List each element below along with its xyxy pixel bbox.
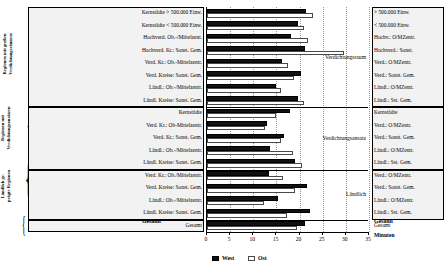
category-label-right: > 500.000 Einw. (374, 10, 448, 15)
x-tick-mark (368, 232, 369, 235)
bar-ost (207, 88, 281, 93)
total-label-right: Gesamt (374, 218, 393, 224)
category-label-left: Ländl.: Ob.-/Mittelzentr. (26, 85, 202, 90)
bar-ost (207, 26, 304, 31)
legend-item-ost: Ost (248, 255, 267, 261)
section-title: Verdichtungsansatz (266, 135, 366, 141)
bar-ost (207, 213, 287, 218)
category-label-right: Ländl.: Sst. Gem. (374, 160, 448, 165)
side-caption-group1-line2: Verdichtungsräumen (8, 33, 13, 74)
bar-ost (207, 176, 283, 181)
category-label-right: Hochv.: O/MZentr. (374, 35, 448, 40)
category-label-right: Verd.: Sonst. Gem. (374, 135, 448, 140)
category-label-left: Verd. Kr.: Ob./Mittelzentr. (26, 173, 202, 178)
legend-swatch-ost-icon (248, 256, 255, 261)
x-tick-mark (206, 232, 207, 235)
x-tick-mark (229, 232, 230, 235)
legend-label-west: West (222, 255, 234, 261)
side-caption-group3-line1: Ländlich ge- (0, 174, 5, 199)
bar-ost (207, 163, 302, 168)
x-tick-mark (322, 232, 323, 235)
x-tick-label-0: 0 (196, 236, 216, 242)
gridline-30 (346, 7, 348, 232)
axis-baseline (207, 232, 368, 233)
category-label-left: Kernstädte > 500.000 Einw. (26, 10, 202, 15)
category-label-right: Hochverd.: Sonst. (374, 48, 448, 53)
category-label-left: Ländl. Kreise: Sonst. Gem. (26, 98, 202, 103)
category-label-left: Kernstädte (26, 110, 202, 115)
section-title: Verdichtungsraum (266, 54, 366, 60)
category-label-left: Ländl. Kreise: Sonst. Gem. (26, 160, 202, 165)
category-label-right: Ländl.: Sst. Gem. (374, 98, 448, 103)
category-label-right: Verd.: Sonst. Gem. (374, 73, 448, 78)
category-label-left: Verd. Kr.: Sonst. Gem. (26, 135, 202, 140)
category-label-right: Ländl.: Sst. Gem. (374, 210, 448, 215)
side-caption-group1: Regionen mit großen Verdichtungsräumen (0, 14, 28, 94)
legend-item-west: West (212, 255, 234, 261)
category-label-left: Gesamt (26, 223, 202, 228)
x-tick-label-30: 30 (335, 236, 355, 242)
side-caption-group2-line2: Verdichtungsansätzen (6, 106, 11, 149)
category-label-right: Verd.: O/MZentr. (374, 123, 448, 128)
section-title: Ländlich (266, 191, 366, 197)
section-separator (207, 220, 368, 221)
category-label-right: Verd.: Sonst. Gem. (374, 185, 448, 190)
bar-ost (207, 38, 308, 43)
side-caption-group3: Ländlich ge- prägte Regionen (0, 160, 26, 212)
bar-ost (207, 126, 265, 131)
bar-ost (207, 151, 293, 156)
bar-ost (207, 76, 294, 81)
category-label-left: Verd. Kreise: Sonst. Gem. (26, 73, 202, 78)
x-tick-mark (345, 232, 346, 235)
category-label-left: Verd. Kreise: Sonst. Gem. (26, 185, 202, 190)
bar-ost (207, 113, 276, 118)
bar-ost (207, 63, 288, 68)
bar-ost (207, 101, 304, 106)
x-tick-mark (252, 232, 253, 235)
category-label-right: Ländl.: O/MZentr. (374, 85, 448, 90)
category-label-left: Ländl.: Ob.-/Mittelzentr. (26, 198, 202, 203)
side-caption-group3-line2: prägte Regionen (6, 170, 11, 202)
axis-unit-label: Minuten (374, 232, 395, 238)
category-label-left: Hochverd. Ob.-/Mittelzent. (26, 35, 202, 40)
side-caption-group2: Regionen mit Verdichtungsansätzen (0, 98, 26, 158)
category-label-left: Verd. Kr.: Ob-Mittelzentr. (26, 123, 202, 128)
gridline-25 (323, 7, 325, 232)
category-label-right: Ländl.: O/MZentr. (374, 148, 448, 153)
category-label-left: Kernstädte < 500.000 Einw. (26, 23, 202, 28)
legend-label-ost: Ost (258, 255, 267, 261)
category-label-right: Kernstädte (374, 110, 448, 115)
section-separator (207, 107, 368, 108)
bar-ost (207, 201, 264, 206)
category-label-left: Ländl.: Ob.-/Mittelzentr. (26, 148, 202, 153)
x-tick-label-5: 5 (219, 236, 239, 242)
category-label-left: Ländl. Kreise: Sonst. Gem. (26, 210, 202, 215)
x-tick-label-15: 15 (265, 236, 285, 242)
x-tick-mark (275, 232, 276, 235)
x-tick-label-10: 10 (242, 236, 262, 242)
chart-container: Regionen mit großen Verdichtungsräumen R… (0, 0, 448, 270)
x-tick-label-20: 20 (289, 236, 309, 242)
category-label-right: Verd.: O/MZentr. (374, 60, 448, 65)
category-label-left: Verd. Kr.: Ob.-Mittelzentr. (26, 60, 202, 65)
section-separator (207, 170, 368, 171)
category-label-right: < 500.000 Einw. (374, 23, 448, 28)
gridline-35 (369, 7, 371, 232)
bar-ost (207, 13, 313, 18)
bar-ost (207, 226, 297, 231)
x-tick-label-25: 25 (312, 236, 332, 242)
category-label-right: Ländl.: O/MZentr. (374, 198, 448, 203)
side-caption-group2-line1: Regionen mit (0, 115, 5, 141)
x-tick-mark (299, 232, 300, 235)
side-caption-group1-line1: Regionen mit großen (2, 34, 7, 75)
category-label-left: Hochverd. Kr.: Sonst. Gem. (26, 48, 202, 53)
plot-area (206, 7, 368, 232)
category-label-right: Verd.: O/MZentr. (374, 173, 448, 178)
total-label-left: Gesamt (142, 218, 161, 224)
legend-swatch-west-icon (212, 256, 219, 261)
